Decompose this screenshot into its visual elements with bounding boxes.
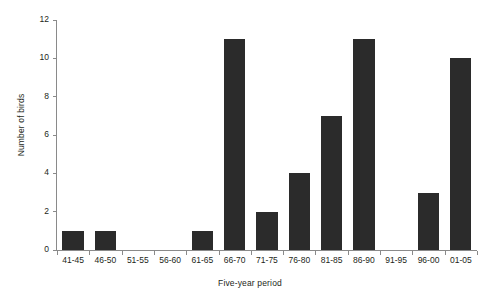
plot-area: 024681012 [57, 20, 477, 250]
bar [192, 231, 213, 250]
y-axis-tick-mark [53, 211, 57, 212]
y-axis-tick-mark [53, 96, 57, 97]
bar [321, 116, 342, 250]
x-axis-tick-label: 41-45 [57, 255, 89, 265]
x-axis-tick-label: 96-00 [412, 255, 444, 265]
x-axis-title: Five-year period [0, 278, 492, 288]
x-axis-tick-label: 51-55 [122, 255, 154, 265]
y-axis-tick-label: 10 [40, 52, 49, 62]
bar [95, 231, 116, 250]
bar-chart-figure: Number of birds 024681012 Five-year peri… [0, 0, 492, 301]
y-axis-title-text: Number of birds [16, 94, 26, 157]
y-axis-title: Number of birds [14, 0, 28, 250]
x-axis-line [56, 250, 477, 251]
y-axis-tick-mark [53, 173, 57, 174]
x-axis-tick-label: 76-80 [283, 255, 315, 265]
y-axis-tick-label: 6 [44, 129, 49, 139]
bar [450, 58, 471, 250]
bar [289, 173, 310, 250]
y-axis-tick-label: 8 [44, 91, 49, 101]
bar [418, 193, 439, 251]
x-axis-tick-label: 01-05 [445, 255, 477, 265]
y-axis-tick-label: 0 [44, 244, 49, 254]
y-axis-tick-mark [53, 58, 57, 59]
x-axis-title-text: Five-year period [218, 278, 282, 288]
x-axis-tick-label: 46-50 [89, 255, 121, 265]
bar [353, 39, 374, 250]
bar [62, 231, 83, 250]
x-axis-tick-label: 86-90 [348, 255, 380, 265]
x-axis-tick-label: 61-65 [186, 255, 218, 265]
y-axis-tick-label: 2 [44, 206, 49, 216]
x-axis-tick-mark [477, 251, 478, 255]
y-axis-tick-label: 4 [44, 167, 49, 177]
x-axis-tick-label: 66-70 [219, 255, 251, 265]
x-axis-tick-label: 81-85 [315, 255, 347, 265]
y-axis-tick-label: 12 [40, 14, 49, 24]
y-axis-tick-mark [53, 135, 57, 136]
bar [256, 212, 277, 250]
x-axis-tick-label: 71-75 [251, 255, 283, 265]
y-axis-tick-mark [53, 20, 57, 21]
bar [224, 39, 245, 250]
x-axis-tick-label: 56-60 [154, 255, 186, 265]
x-axis-tick-label: 91-95 [380, 255, 412, 265]
